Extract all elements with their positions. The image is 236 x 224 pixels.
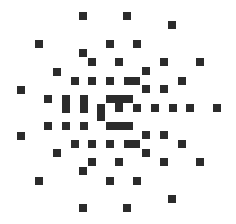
logo-square: [106, 40, 114, 48]
logo-square: [17, 132, 25, 140]
logo-square: [80, 95, 88, 113]
logo-square: [62, 95, 70, 113]
logo-square: [79, 167, 87, 175]
logo-square: [79, 204, 87, 212]
logo-square: [53, 149, 61, 157]
logo-square: [71, 77, 79, 85]
logo-square: [168, 195, 176, 203]
logo-square: [213, 104, 221, 112]
logo-square: [168, 21, 176, 29]
logo-square: [115, 103, 123, 112]
logo-square: [186, 104, 194, 112]
logo-square: [79, 49, 87, 57]
logo-square: [71, 140, 79, 148]
logo-square: [88, 58, 96, 66]
logo-square: [142, 85, 150, 93]
logo-square: [106, 140, 114, 148]
logo-square: [133, 104, 141, 112]
logo-square: [35, 40, 43, 48]
logo-square: [106, 77, 114, 85]
logo-square: [169, 104, 177, 112]
logo-square: [124, 77, 140, 85]
logo-square: [106, 95, 133, 103]
logo-square: [178, 77, 186, 85]
logo-square: [160, 85, 168, 93]
logo-square: [97, 104, 105, 121]
logo-square: [133, 177, 141, 185]
logo-square: [80, 122, 88, 130]
logo-square: [17, 86, 25, 94]
logo-square: [178, 140, 186, 148]
logo-square: [196, 158, 204, 166]
logo-square: [196, 58, 204, 66]
logo-square: [142, 149, 150, 157]
logo-square: [160, 158, 168, 166]
logo-square: [151, 104, 159, 112]
logo-square: [88, 140, 96, 148]
logo-square: [44, 95, 52, 103]
logo-square: [53, 68, 61, 76]
logo-square: [44, 122, 52, 130]
logo-square: [79, 12, 87, 20]
logo-square: [62, 122, 70, 130]
logo-square: [142, 67, 150, 75]
logo-square: [35, 177, 43, 185]
logo-square: [88, 158, 96, 166]
logo-square: [88, 77, 96, 85]
logo-square: [133, 40, 141, 48]
logo-square: [106, 122, 133, 130]
logo-square: [160, 58, 168, 66]
logo-square: [115, 158, 123, 166]
logo-square: [123, 12, 131, 20]
logo-square: [115, 58, 123, 66]
logo-square: [124, 140, 140, 148]
logo-square: [123, 204, 131, 212]
logo-square: [142, 131, 150, 139]
logo-square: [106, 177, 114, 185]
logo-square: [160, 131, 168, 139]
dot-matrix-logo: [0, 0, 236, 224]
